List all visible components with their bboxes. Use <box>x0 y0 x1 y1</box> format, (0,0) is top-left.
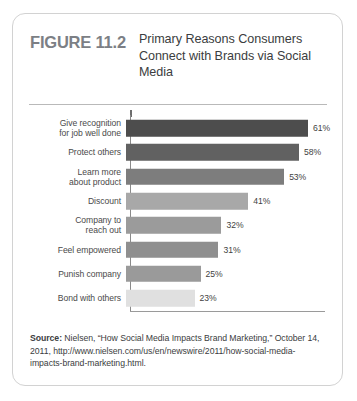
source-text: Nielsen, “How Social Media Impacts Brand… <box>30 333 319 368</box>
bar-track: 23% <box>126 286 327 310</box>
bar-track: 61% <box>126 116 327 140</box>
bar-category-label: Feel empowered <box>29 245 126 255</box>
header-divider <box>29 104 327 105</box>
bar-value-label: 58% <box>304 147 321 157</box>
bar <box>126 290 195 307</box>
bar-chart: Give recognitionfor job well done61%Prot… <box>29 110 327 318</box>
bar <box>126 144 299 161</box>
bar-row: Protect others58% <box>29 140 327 164</box>
bar <box>126 217 221 234</box>
figure-header: FIGURE 11.2 Primary Reasons Consumers Co… <box>13 14 342 81</box>
bar-track: 58% <box>126 140 327 164</box>
bar <box>126 120 308 137</box>
bar-value-label: 41% <box>253 196 270 206</box>
bar-category-label: Give recognitionfor job well done <box>29 118 126 138</box>
bar-category-label: Bond with others <box>29 293 126 303</box>
bar-category-label: Company toreach out <box>29 215 126 235</box>
bar-value-label: 53% <box>289 172 306 182</box>
bar-track: 31% <box>126 237 327 261</box>
bar-value-label: 25% <box>206 269 223 279</box>
bar-category-label-line: reach out <box>29 225 121 235</box>
bar-category-label-line: Discount <box>29 196 121 206</box>
figure-number: FIGURE 11.2 <box>30 31 126 53</box>
bar-row: Bond with others23% <box>29 286 327 310</box>
bar-value-label: 61% <box>313 123 330 133</box>
source-label: Source: <box>30 333 62 343</box>
bar-category-label: Protect others <box>29 147 126 157</box>
bar-category-label-line: Company to <box>29 215 121 225</box>
bar-category-label: Learn moreabout product <box>29 167 126 187</box>
bar-row: Learn moreabout product53% <box>29 165 327 189</box>
bar-track: 41% <box>126 189 327 213</box>
bar-row: Feel empowered31% <box>29 237 327 261</box>
bar-category-label-line: Bond with others <box>29 293 121 303</box>
bar-category-label-line: Protect others <box>29 147 121 157</box>
bar <box>126 193 248 210</box>
bar-category-label-line: about product <box>29 177 121 187</box>
bar-category-label: Punish company <box>29 269 126 279</box>
bar-track: 25% <box>126 262 327 286</box>
bar-row: Discount41% <box>29 189 327 213</box>
bar <box>126 241 218 258</box>
bar-value-label: 31% <box>223 245 240 255</box>
bar-value-label: 32% <box>226 220 243 230</box>
bar-category-label-line: Punish company <box>29 269 121 279</box>
figure-title: Primary Reasons Consumers Connect with B… <box>139 31 326 81</box>
figure-card: FIGURE 11.2 Primary Reasons Consumers Co… <box>12 13 343 386</box>
bar-row: Punish company25% <box>29 262 327 286</box>
bar-category-label-line: Learn more <box>29 167 121 177</box>
bar-track: 32% <box>126 213 327 237</box>
bar-rows: Give recognitionfor job well done61%Prot… <box>29 116 327 310</box>
bar <box>126 266 201 283</box>
bar-category-label-line: Give recognition <box>29 118 121 128</box>
bar-category-label-line: Feel empowered <box>29 245 121 255</box>
bar-category-label: Discount <box>29 196 126 206</box>
bar-track: 53% <box>126 165 327 189</box>
bar-row: Give recognitionfor job well done61% <box>29 116 327 140</box>
bar-category-label-line: for job well done <box>29 128 121 138</box>
bar-value-label: 23% <box>200 293 217 303</box>
category-axis-baseline <box>130 311 325 312</box>
bar <box>126 168 284 185</box>
source-note: Source: Nielsen, “How Social Media Impac… <box>30 332 326 370</box>
bar-row: Company toreach out32% <box>29 213 327 237</box>
